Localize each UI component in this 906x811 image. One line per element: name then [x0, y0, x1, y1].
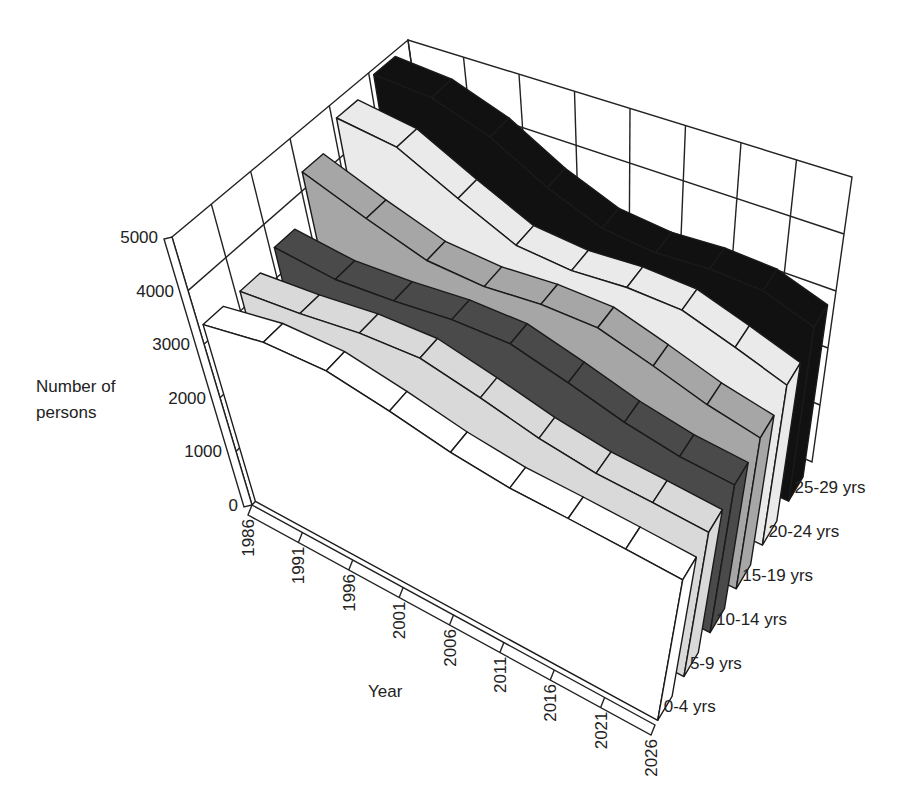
series-label: 15-19 yrs: [742, 566, 813, 585]
y-axis-title-line2: persons: [36, 403, 96, 422]
y-axis-title-line1: Number of: [36, 377, 116, 396]
series-label: 0-4 yrs: [664, 697, 716, 716]
series-label: 5-9 yrs: [690, 654, 742, 673]
3d-ribbon-chart: Number of persons Year 01000200030004000…: [0, 0, 906, 811]
x-tick-label: 2011: [491, 657, 510, 694]
series-label: 10-14 yrs: [716, 610, 787, 629]
y-tick-label: 1000: [184, 442, 222, 461]
y-tick-label: 4000: [136, 282, 174, 301]
y-tick-label: 2000: [168, 389, 206, 408]
x-tick-label: 1991: [289, 547, 308, 585]
y-tick-label: 3000: [152, 335, 190, 354]
x-tick-label: 1996: [340, 574, 359, 612]
x-tick-label: 2001: [390, 602, 409, 640]
y-tick-label: 5000: [120, 228, 158, 247]
x-tick-label: 2021: [592, 712, 611, 750]
x-tick-label: 2026: [642, 739, 661, 777]
series-label: 20-24 yrs: [768, 522, 839, 541]
y-tick-label: 0: [229, 496, 238, 515]
x-axis-title: Year: [368, 682, 403, 701]
x-tick-label: 2016: [541, 684, 560, 722]
x-tick-label: 1986: [239, 519, 258, 557]
series-label: 25-29 yrs: [795, 478, 866, 497]
x-tick-label: 2006: [441, 629, 460, 667]
